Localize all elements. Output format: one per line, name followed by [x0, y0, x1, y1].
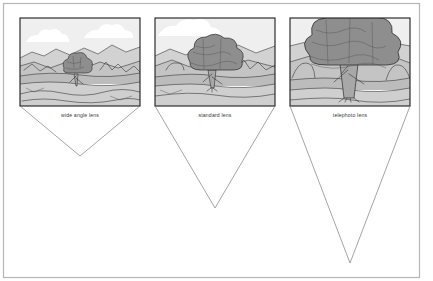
figure-canvas: wide angle lens [0, 0, 433, 281]
panel-telephoto [290, 9, 410, 106]
scene-telephoto [290, 9, 410, 106]
lens-field-of-view-figure: wide angle lens [0, 0, 433, 281]
scene-standard [155, 18, 275, 106]
cone-standard [155, 106, 275, 208]
label-standard-lens: standard lens [198, 112, 231, 118]
cone-telephoto [290, 106, 410, 263]
label-wide-angle-lens: wide angle lens [61, 112, 99, 118]
scene-wide-angle [20, 18, 140, 106]
label-telephoto-lens: telephoto lens [333, 112, 368, 118]
panel-standard [155, 18, 275, 106]
panel-wide-angle [20, 18, 140, 106]
